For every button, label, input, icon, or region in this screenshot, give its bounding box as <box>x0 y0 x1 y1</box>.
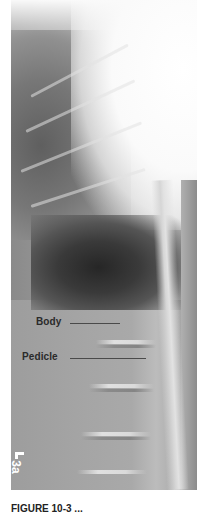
disc-space <box>81 437 151 440</box>
marker-l-icon <box>15 452 24 459</box>
disc-space <box>89 389 154 392</box>
disc-space <box>96 345 156 348</box>
film-marker: 3a <box>13 452 27 482</box>
label-pedicle: Pedicle <box>22 351 58 362</box>
xray-figure <box>11 0 197 490</box>
figure-caption: FIGURE 10-3 ... <box>11 503 83 515</box>
label-body: Body <box>36 316 61 327</box>
leader-line-pedicle <box>70 358 146 359</box>
vertebral-endplate <box>96 340 156 344</box>
marker-text: 3a <box>9 460 23 473</box>
leader-line-body <box>70 323 120 324</box>
vertebral-endplate <box>89 384 154 388</box>
vertebral-endplate <box>77 470 147 474</box>
vertebral-endplate <box>81 432 151 436</box>
overexposed-region <box>71 0 197 230</box>
